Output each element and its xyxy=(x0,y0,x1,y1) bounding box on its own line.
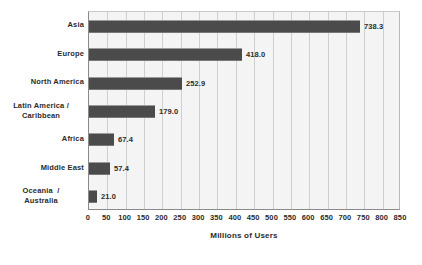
bar xyxy=(89,20,360,33)
bar-value-label: 738.3 xyxy=(364,22,383,31)
x-tick-label: 0 xyxy=(86,213,90,222)
bar xyxy=(89,190,97,203)
category-label-line: Oceania / xyxy=(0,186,82,196)
x-tick-label: 300 xyxy=(192,213,205,222)
x-axis-tick-labels: 0501001502002503003504004505005506006507… xyxy=(88,213,400,225)
category-label: Asia xyxy=(0,20,84,30)
category-label: Africa xyxy=(0,134,84,144)
x-tick-label: 700 xyxy=(339,213,352,222)
bar-value-label: 252.9 xyxy=(186,79,205,88)
bar-chart: AsiaEuropeNorth AmericaLatin America /Ca… xyxy=(0,0,422,265)
category-label-line: Africa xyxy=(0,134,84,144)
x-tick-label: 200 xyxy=(155,213,168,222)
x-tick-label: 800 xyxy=(375,213,388,222)
category-label: North America xyxy=(0,77,84,87)
bar-value-label: 179.0 xyxy=(159,107,178,116)
category-label-line: Middle East xyxy=(0,163,84,173)
category-label-line: Europe xyxy=(0,49,84,59)
category-label: Europe xyxy=(0,49,84,59)
x-axis-title: Millions of Users xyxy=(88,231,400,240)
category-label: Middle East xyxy=(0,163,84,173)
bar-value-label: 67.4 xyxy=(118,135,133,144)
bars-layer: 738.3418.0252.9179.067.457.421.0 xyxy=(89,12,399,209)
bar xyxy=(89,105,155,118)
x-tick-label: 550 xyxy=(283,213,296,222)
bar xyxy=(89,133,114,146)
bar-value-label: 21.0 xyxy=(101,192,116,201)
bar-value-label: 418.0 xyxy=(246,50,265,59)
x-tick-label: 250 xyxy=(173,213,186,222)
x-tick-label: 600 xyxy=(302,213,315,222)
x-tick-label: 400 xyxy=(228,213,241,222)
x-tick-label: 500 xyxy=(265,213,278,222)
x-tick-label: 850 xyxy=(394,213,407,222)
category-label-line: Caribbean xyxy=(0,111,82,121)
bar xyxy=(89,77,182,90)
x-tick-label: 350 xyxy=(210,213,223,222)
category-label-line: North America xyxy=(0,77,84,87)
bar xyxy=(89,48,242,61)
bar-value-label: 57.4 xyxy=(114,164,129,173)
x-tick-label: 650 xyxy=(320,213,333,222)
category-label-line: Australia xyxy=(0,196,82,206)
x-tick-label: 50 xyxy=(102,213,111,222)
plot-area: 738.3418.0252.9179.067.457.421.0 xyxy=(88,11,400,210)
x-tick-label: 450 xyxy=(247,213,260,222)
x-tick-label: 750 xyxy=(357,213,370,222)
category-label-line: Asia xyxy=(0,20,84,30)
x-tick-label: 100 xyxy=(118,213,131,222)
category-label: Oceania /Australia xyxy=(0,186,84,205)
category-label-line: Latin America / xyxy=(0,101,82,111)
bar xyxy=(89,162,110,175)
category-axis: AsiaEuropeNorth AmericaLatin America /Ca… xyxy=(0,11,84,210)
category-label: Latin America /Caribbean xyxy=(0,101,84,120)
x-tick-label: 150 xyxy=(137,213,150,222)
